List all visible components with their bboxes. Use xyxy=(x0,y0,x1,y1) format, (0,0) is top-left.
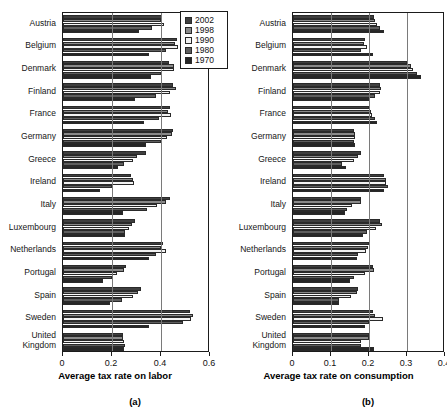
bar-belgium-1970 xyxy=(63,53,149,56)
legend-swatch-icon xyxy=(185,17,192,24)
y-axis-label: Spain xyxy=(34,291,56,301)
legend-swatch-icon xyxy=(185,37,192,44)
plot-area-b xyxy=(292,12,444,352)
y-axis-label: Denmark xyxy=(22,64,56,74)
legend-label: 1998 xyxy=(195,25,214,35)
bar-portugal-1970 xyxy=(293,279,350,282)
legend-swatch-icon xyxy=(185,47,192,54)
bar-united-kingdom-1970 xyxy=(63,347,124,350)
bar-group xyxy=(63,104,208,127)
y-axis-label: Portugal xyxy=(254,268,286,278)
x-axis-title-b: Average tax rate on consumption xyxy=(230,370,447,381)
y-axis-label: France xyxy=(260,109,286,119)
bar-group xyxy=(293,285,443,308)
bar-group xyxy=(293,194,443,217)
bar-portugal-1970 xyxy=(63,279,103,282)
bar-group xyxy=(63,217,208,240)
bar-group xyxy=(63,81,208,104)
gridline xyxy=(369,13,370,351)
x-tick-label: 0.1 xyxy=(310,358,350,368)
x-tick-label: 0.2 xyxy=(91,358,131,368)
bar-group xyxy=(293,13,443,36)
gridline xyxy=(161,13,162,351)
panel-a: AustriaBelgiumDenmarkFinlandFranceGerman… xyxy=(0,0,230,418)
y-axis-label: Belgium xyxy=(25,41,56,51)
bar-denmark-1970 xyxy=(63,75,151,78)
y-axis-label: Austria xyxy=(260,19,286,29)
bar-germany-1970 xyxy=(63,143,146,146)
bar-group xyxy=(63,330,208,353)
legend-label: 1990 xyxy=(195,35,214,45)
y-axis-labels-a: AustriaBelgiumDenmarkFinlandFranceGerman… xyxy=(0,12,59,352)
y-axis-label: Spain xyxy=(264,291,286,301)
y-axis-label: UnitedKingdom xyxy=(252,331,286,350)
bar-group xyxy=(293,81,443,104)
bar-austria-1970 xyxy=(293,30,384,33)
x-tick-label: 0 xyxy=(272,358,312,368)
x-tick-label: 0 xyxy=(42,358,82,368)
y-axis-label: Sweden xyxy=(255,313,286,323)
legend-item-1980: 1980 xyxy=(185,45,222,55)
y-axis-label: UnitedKingdom xyxy=(22,331,56,350)
bar-united-kingdom-1970 xyxy=(293,347,374,350)
panel-label-a: (a) xyxy=(115,396,155,407)
x-tick xyxy=(330,352,331,356)
x-tick-label: 0.4 xyxy=(140,358,180,368)
x-tick-label: 0.2 xyxy=(348,358,388,368)
legend-label: 1980 xyxy=(195,45,214,55)
x-axis-title-a: Average tax rate on labor xyxy=(0,370,230,381)
bar-denmark-1970 xyxy=(293,75,421,78)
y-axis-label: Ireland xyxy=(260,177,286,187)
bar-group xyxy=(293,126,443,149)
bar-sweden-1970 xyxy=(293,325,365,328)
x-tick xyxy=(368,352,369,356)
legend-item-1970: 1970 xyxy=(185,55,222,65)
bar-group xyxy=(63,126,208,149)
bar-group xyxy=(293,58,443,81)
bar-greece-1970 xyxy=(63,166,118,169)
bar-group xyxy=(63,149,208,172)
legend-item-2002: 2002 xyxy=(185,15,222,25)
gridline xyxy=(331,13,332,351)
y-axis-label: Finland xyxy=(28,87,56,97)
y-axis-label: Germany xyxy=(21,132,56,142)
bar-group xyxy=(293,104,443,127)
y-axis-label: Finland xyxy=(258,87,286,97)
legend-label: 2002 xyxy=(195,15,214,25)
x-tick xyxy=(62,352,63,356)
bar-finland-1970 xyxy=(63,98,135,101)
y-axis-label: Greece xyxy=(258,155,286,165)
y-axis-label: Denmark xyxy=(252,64,286,74)
x-tick-label: 0.4 xyxy=(424,358,447,368)
y-axis-label: Belgium xyxy=(255,41,286,51)
legend-swatch-icon xyxy=(185,57,192,64)
panel-label-b: (b) xyxy=(348,396,388,407)
bar-italy-1970 xyxy=(63,211,123,214)
bar-france-1970 xyxy=(293,121,377,124)
bar-group xyxy=(63,308,208,331)
bar-netherlands-1970 xyxy=(63,257,149,260)
legend-label: 1970 xyxy=(195,55,214,65)
bar-france-1970 xyxy=(63,121,144,124)
bar-group xyxy=(63,262,208,285)
y-axis-label: Portugal xyxy=(24,268,56,278)
bar-spain-1970 xyxy=(63,302,110,305)
y-axis-label: Ireland xyxy=(30,177,56,187)
bar-austria-1970 xyxy=(63,30,139,33)
bar-luxembourg-1970 xyxy=(63,234,125,237)
y-axis-labels-b: AustriaBelgiumDenmarkFinlandFranceGerman… xyxy=(230,12,289,352)
y-axis-label: Netherlands xyxy=(240,245,286,255)
bar-ireland-1970 xyxy=(63,189,100,192)
y-axis-label: Luxembourg xyxy=(9,223,56,233)
y-axis-label: Germany xyxy=(251,132,286,142)
bar-sweden-1970 xyxy=(63,325,149,328)
y-axis-label: Luxembourg xyxy=(239,223,286,233)
bars-container-b xyxy=(293,13,443,351)
figure: AustriaBelgiumDenmarkFinlandFranceGerman… xyxy=(0,0,447,418)
bar-group xyxy=(293,149,443,172)
bar-group xyxy=(293,172,443,195)
bar-group xyxy=(63,285,208,308)
bar-germany-1970 xyxy=(293,143,355,146)
bar-ireland-1970 xyxy=(293,189,384,192)
x-tick-label: 0.3 xyxy=(386,358,426,368)
